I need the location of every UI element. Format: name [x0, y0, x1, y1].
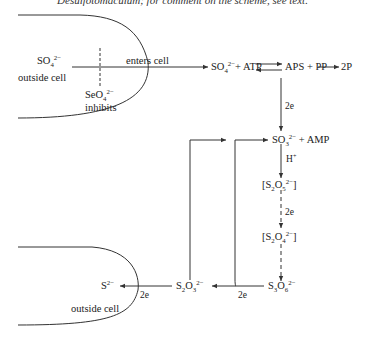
trithionate-node: S3O62−: [268, 281, 296, 292]
aps-pp-node: APS + PP: [285, 62, 327, 73]
outside-cell-label-bottom: outside cell: [71, 304, 119, 315]
sulfide-node: S2−: [101, 281, 114, 292]
enters-cell-label: enters cell: [126, 56, 169, 67]
electron-label-4: 2e: [140, 291, 149, 301]
inhibits-label: inhibits: [85, 103, 117, 114]
selenate-inhibitor-label: SeO42−: [85, 90, 114, 101]
proton-label: H+: [286, 155, 296, 165]
outside-cell-label-top: outside cell: [18, 73, 66, 84]
electron-label-3: 2e: [238, 291, 247, 301]
phosphate-product-node: 2P: [341, 62, 352, 73]
electron-label-2: 2e: [285, 208, 294, 218]
sulfate-atp-node: SO42−+ ATP: [211, 62, 262, 73]
thiosulfate-node: S2O32−: [176, 281, 204, 292]
sulfite-amp-node: SO32− + AMP: [272, 135, 329, 146]
sulfate-outside-label: SO42−: [37, 56, 61, 67]
dithionite-node: [S2O42−]: [262, 232, 297, 243]
metabisulfite-node: [S2O52−]: [262, 180, 297, 191]
electron-label-1: 2e: [285, 102, 294, 112]
